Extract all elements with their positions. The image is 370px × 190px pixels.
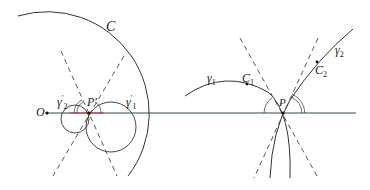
label-gamma2-prime: γ′2 [57,95,67,111]
label-origin: O [36,106,45,118]
diagram-canvas [0,0,370,190]
p-prime-dot [87,111,90,114]
angle-arc-right-3 [292,94,305,113]
label-c2: C2 [315,64,327,79]
angle-arc-right-1 [264,98,272,113]
label-circle-c: C [106,20,115,34]
angle-arc-right-2 [291,97,302,113]
label-gamma1: γ1 [207,72,216,87]
gamma1-arc [185,81,290,178]
label-c1: C1 [242,72,254,87]
circle-c-arc [18,12,149,176]
angle-arc-left-1 [77,102,83,113]
tangent-dashed-4 [254,38,318,178]
inversion-diagram: C O P′ γ′2 γ′1 γ1 C1 P C2 γ2 [0,0,370,190]
label-p-prime: P′ [87,96,97,108]
label-gamma1-prime: γ′1 [126,95,136,111]
origin-dot [45,111,48,114]
label-p: P [279,97,286,108]
label-gamma2: γ2 [335,44,344,59]
p-dot [281,111,284,114]
